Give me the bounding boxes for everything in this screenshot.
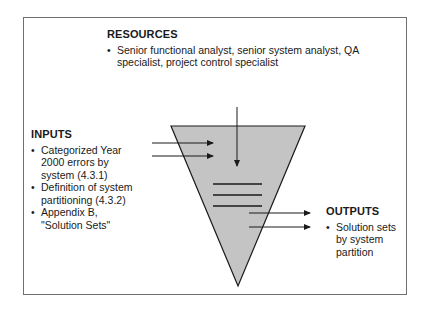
resources-block: RESOURCES Senior functional analyst, sen… [107,28,397,69]
inputs-item: Appendix B, "Solution Sets" [31,206,141,231]
resources-heading: RESOURCES [107,28,397,41]
inputs-item: Definition of system partitioning (4.3.2… [31,181,141,206]
outputs-block: OUTPUTS Solution sets by system partitio… [326,205,406,258]
outputs-list: Solution sets by system partition [326,221,406,259]
inputs-list: Categorized Year 2000 errors by system (… [31,144,141,232]
inputs-item: Categorized Year 2000 errors by system (… [31,144,141,182]
outputs-heading: OUTPUTS [326,205,406,218]
resources-item: Senior functional analyst, senior system… [107,44,397,69]
outputs-item: Solution sets by system partition [326,221,406,259]
resources-list: Senior functional analyst, senior system… [107,44,397,69]
inputs-block: INPUTS Categorized Year 2000 errors by s… [31,128,141,231]
inputs-heading: INPUTS [31,128,141,141]
